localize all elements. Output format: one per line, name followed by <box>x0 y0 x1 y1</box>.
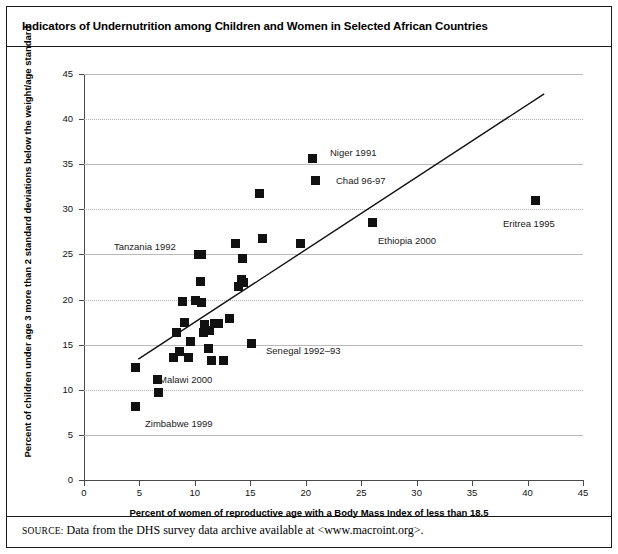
point-label: Ethiopia 2000 <box>378 236 436 246</box>
figure-title: Indicators of Undernutrition among Child… <box>22 20 488 32</box>
x-tick-label-0: 0 <box>69 488 99 498</box>
data-point <box>131 402 140 411</box>
x-tick-label-5: 5 <box>124 488 154 498</box>
data-point <box>154 388 163 397</box>
x-tick-label-15: 15 <box>235 488 265 498</box>
x-tick-45 <box>583 481 584 486</box>
source-text: Data from the DHS survey data archive av… <box>67 523 424 537</box>
source-note: SOURCE: Data from the DHS survey data ar… <box>22 523 424 538</box>
data-point <box>197 298 206 307</box>
data-point <box>180 318 189 327</box>
data-point <box>178 297 187 306</box>
point-label: Niger 1991 <box>330 148 376 158</box>
data-point <box>186 337 195 346</box>
y-tick-label-15: 15 <box>43 340 73 350</box>
title-divider <box>7 46 611 47</box>
y-tick-label-40: 40 <box>43 114 73 124</box>
trend-line-segment <box>138 94 544 359</box>
data-point <box>255 189 264 198</box>
data-point <box>219 356 228 365</box>
x-tick-0 <box>84 481 85 486</box>
x-tick-20 <box>306 481 307 486</box>
x-tick-25 <box>361 481 362 486</box>
y-tick-label-5: 5 <box>43 430 73 440</box>
x-tick-40 <box>528 481 529 486</box>
y-tick-label-10: 10 <box>43 385 73 395</box>
x-tick-15 <box>250 481 251 486</box>
data-point <box>172 328 181 337</box>
data-point <box>207 356 216 365</box>
data-point <box>247 339 256 348</box>
point-label: Senegal 1992–93 <box>266 346 341 356</box>
point-label: Chad 96-97 <box>336 176 386 186</box>
point-label: Malawi 2000 <box>159 375 212 385</box>
x-tick-10 <box>195 481 196 486</box>
x-tick-5 <box>139 481 140 486</box>
chart-figure: Indicators of Undernutrition among Child… <box>0 0 618 554</box>
x-tick-35 <box>472 481 473 486</box>
data-point <box>131 363 140 372</box>
data-point <box>196 277 205 286</box>
data-point <box>184 353 193 362</box>
x-tick-label-10: 10 <box>180 488 210 498</box>
y-tick-label-25: 25 <box>43 249 73 259</box>
data-point <box>368 218 377 227</box>
x-tick-label-40: 40 <box>513 488 543 498</box>
data-point <box>296 239 305 248</box>
x-tick-label-20: 20 <box>291 488 321 498</box>
y-axis-title: Percent of children under age 3 more tha… <box>22 78 33 458</box>
data-point <box>197 250 206 259</box>
x-axis-line <box>84 480 584 481</box>
point-label: Eritrea 1995 <box>503 219 555 229</box>
x-tick-label-35: 35 <box>457 488 487 498</box>
data-point <box>231 239 240 248</box>
point-label: Tanzania 1992 <box>114 242 176 252</box>
x-tick-30 <box>417 481 418 486</box>
data-point <box>225 314 234 323</box>
data-point <box>308 154 317 163</box>
data-point <box>214 319 223 328</box>
y-tick-label-30: 30 <box>43 204 73 214</box>
point-label: Zimbabwe 1999 <box>145 419 213 429</box>
data-point <box>531 196 540 205</box>
x-tick-label-45: 45 <box>568 488 598 498</box>
source-divider <box>7 516 611 517</box>
y-tick-label-35: 35 <box>43 159 73 169</box>
y-axis-tick-labels: 051015202530354045 <box>40 0 73 554</box>
data-point <box>238 254 247 263</box>
data-point <box>175 347 184 356</box>
data-point <box>204 344 213 353</box>
y-tick-label-0: 0 <box>43 475 73 485</box>
y-tick-label-20: 20 <box>43 295 73 305</box>
source-label: SOURCE: <box>22 526 64 536</box>
x-tick-label-25: 25 <box>346 488 376 498</box>
y-tick-label-45: 45 <box>43 69 73 79</box>
data-point <box>311 176 320 185</box>
x-tick-label-30: 30 <box>402 488 432 498</box>
data-point <box>258 234 267 243</box>
data-point <box>239 278 248 287</box>
